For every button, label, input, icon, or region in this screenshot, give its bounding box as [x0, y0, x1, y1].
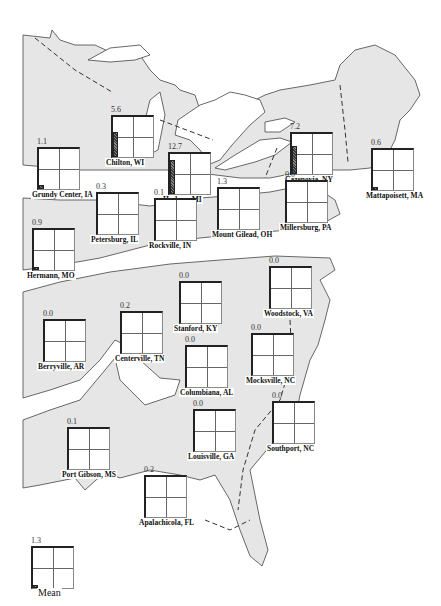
site-value: 0.0 [272, 391, 282, 400]
site-value: 0.1 [154, 188, 164, 197]
site-value: 1.1 [37, 137, 47, 146]
site-chart-box [269, 266, 312, 309]
site-value: 0.0 [251, 323, 261, 332]
site-chart-box [111, 115, 154, 158]
site-label: Port Gibson, MS [61, 470, 117, 479]
site-chart-box [371, 148, 414, 191]
site-label: Hermann, MO [26, 271, 76, 280]
site-label: Petersburg, IL [90, 235, 139, 244]
mean-label: Mean [37, 588, 62, 597]
site-chart-box [193, 409, 236, 452]
mean-value: 1.3 [31, 536, 41, 545]
site-label: Chilton, WI [105, 158, 145, 167]
site-label: Mount Gilead, OH [211, 230, 273, 239]
site-bar [113, 132, 118, 157]
site-value: 0.0 [285, 170, 295, 179]
site-label: Millersburg, PA [279, 223, 333, 232]
site-chart-box [32, 228, 75, 271]
site-value: 0.0 [179, 271, 189, 280]
site-chart-box [185, 345, 228, 388]
site-chart-box [179, 281, 222, 324]
site-label: Stanford, KY [173, 324, 218, 333]
site-label: Mocksville, NC [245, 376, 296, 385]
site-value: 0.9 [32, 218, 42, 227]
site-value: 5.6 [111, 105, 121, 114]
site-label: Woodstock, VA [263, 309, 314, 318]
site-label: Grundy Center, IA [31, 190, 94, 199]
site-bar [39, 185, 44, 189]
site-chart-box [43, 319, 86, 362]
site-value: 0.2 [144, 465, 154, 474]
site-value: 0.0 [269, 256, 279, 265]
site-label: Rockville, IN [148, 241, 192, 250]
site-label: Mattapoisett, MA [365, 191, 424, 200]
site-value: 1.3 [217, 177, 227, 186]
site-bar [170, 160, 175, 194]
site-label: Berryville, AR [37, 362, 85, 371]
site-chart-box [96, 192, 139, 235]
site-chart-box [251, 333, 294, 376]
site-value: 0.0 [193, 399, 203, 408]
site-bar [34, 267, 39, 270]
site-value: 12.7 [168, 142, 182, 151]
site-value: 0.0 [43, 309, 53, 318]
site-chart-box [144, 475, 187, 518]
site-chart-box [285, 180, 328, 223]
site-chart-box [217, 187, 260, 230]
site-label: Columbiana, AL [179, 388, 234, 397]
site-value: 0.6 [371, 138, 381, 147]
mean-chart-box [31, 546, 74, 589]
site-value: 0.1 [67, 417, 77, 426]
site-value: 7.2 [290, 122, 300, 131]
site-value: 0.2 [120, 301, 130, 310]
site-value: 0.3 [96, 182, 106, 191]
site-chart-box [168, 152, 211, 195]
site-chart-box [37, 147, 80, 190]
site-chart-box [67, 427, 110, 470]
site-label: Louisville, GA [187, 452, 235, 461]
site-chart-box [290, 132, 333, 175]
site-bar [373, 187, 378, 190]
site-label: Apalachicola, FL [138, 518, 195, 527]
site-chart-box [120, 311, 163, 354]
site-chart-box [154, 198, 197, 241]
site-chart-box [272, 401, 315, 444]
site-value: 0.0 [185, 335, 195, 344]
site-label: Centerville, TN [114, 354, 165, 363]
site-label: Southport, NC [266, 444, 315, 453]
